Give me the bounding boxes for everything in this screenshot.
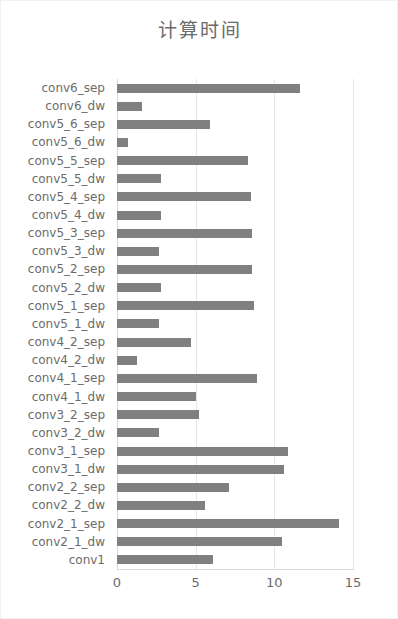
chart-title: 计算时间 bbox=[1, 15, 398, 42]
bar bbox=[117, 156, 248, 165]
bar-row bbox=[117, 133, 353, 151]
bar bbox=[117, 356, 137, 365]
bar bbox=[117, 138, 128, 147]
y-axis-tick-label: conv4_2_dw bbox=[1, 351, 111, 369]
bar-row bbox=[117, 97, 353, 115]
bar-row bbox=[117, 242, 353, 260]
bar-row bbox=[117, 406, 353, 424]
bar-row bbox=[117, 315, 353, 333]
y-axis-tick-label: conv3_1_dw bbox=[1, 460, 111, 478]
bar bbox=[117, 374, 257, 383]
bar bbox=[117, 229, 252, 238]
y-axis-tick-label: conv5_1_dw bbox=[1, 315, 111, 333]
bar bbox=[117, 265, 252, 274]
bar-row bbox=[117, 260, 353, 278]
bar-row bbox=[117, 188, 353, 206]
x-axis-tick-label: 0 bbox=[113, 575, 121, 590]
bar bbox=[117, 102, 142, 111]
y-axis-tick-label: conv5_6_sep bbox=[1, 115, 111, 133]
y-axis-tick-label: conv3_2_dw bbox=[1, 424, 111, 442]
y-axis-tick-label: conv5_5_sep bbox=[1, 152, 111, 170]
y-axis-tick-label: conv5_4_sep bbox=[1, 188, 111, 206]
y-axis-tick-label: conv3_1_sep bbox=[1, 442, 111, 460]
bar-row bbox=[117, 533, 353, 551]
bar bbox=[117, 428, 159, 437]
y-axis-tick-label: conv5_4_dw bbox=[1, 206, 111, 224]
bar bbox=[117, 501, 205, 510]
bar-series bbox=[117, 79, 353, 569]
bar bbox=[117, 192, 251, 201]
x-axis-tick-label: 15 bbox=[345, 575, 362, 590]
bar-row bbox=[117, 224, 353, 242]
bar-row bbox=[117, 424, 353, 442]
bar bbox=[117, 174, 161, 183]
y-axis-tick-label: conv4_1_sep bbox=[1, 369, 111, 387]
bar bbox=[117, 319, 159, 328]
bar-row bbox=[117, 388, 353, 406]
bar-row bbox=[117, 152, 353, 170]
bar-row bbox=[117, 115, 353, 133]
bar-row bbox=[117, 351, 353, 369]
bar bbox=[117, 84, 300, 93]
bar bbox=[117, 465, 284, 474]
x-axis-tick-label: 10 bbox=[266, 575, 283, 590]
y-axis-tick-label: conv4_1_dw bbox=[1, 388, 111, 406]
bar bbox=[117, 283, 161, 292]
bar bbox=[117, 555, 213, 564]
y-axis-tick-label: conv2_2_dw bbox=[1, 496, 111, 514]
y-axis-tick-label: conv5_2_dw bbox=[1, 279, 111, 297]
bar bbox=[117, 483, 229, 492]
y-axis-tick-label: conv2_1_dw bbox=[1, 533, 111, 551]
y-axis-tick-label: conv5_2_sep bbox=[1, 260, 111, 278]
x-axis-labels: 051015 bbox=[117, 575, 353, 599]
y-axis-tick-label: conv2_2_sep bbox=[1, 478, 111, 496]
bar bbox=[117, 338, 191, 347]
bar-chart: 计算时间 conv6_sepconv6_dwconv5_6_sepconv5_6… bbox=[0, 0, 398, 619]
bar bbox=[117, 537, 282, 546]
bar-row bbox=[117, 333, 353, 351]
bar bbox=[117, 301, 254, 310]
bar-row bbox=[117, 206, 353, 224]
y-axis-tick-label: conv5_3_sep bbox=[1, 224, 111, 242]
y-axis-tick-label: conv2_1_sep bbox=[1, 515, 111, 533]
y-axis-tick-label: conv5_6_dw bbox=[1, 133, 111, 151]
x-axis-line bbox=[117, 569, 354, 570]
y-axis-tick-label: conv6_sep bbox=[1, 79, 111, 97]
bar-row bbox=[117, 297, 353, 315]
bar-row bbox=[117, 515, 353, 533]
x-axis-tick-label: 5 bbox=[192, 575, 200, 590]
bar-row bbox=[117, 170, 353, 188]
bar-row bbox=[117, 279, 353, 297]
bar-row bbox=[117, 79, 353, 97]
y-axis-tick-label: conv5_5_dw bbox=[1, 170, 111, 188]
bar-row bbox=[117, 478, 353, 496]
bar-row bbox=[117, 442, 353, 460]
bar-row bbox=[117, 369, 353, 387]
y-axis-tick-label: conv3_2_sep bbox=[1, 406, 111, 424]
y-axis-tick-label: conv4_2_sep bbox=[1, 333, 111, 351]
bar-row bbox=[117, 551, 353, 569]
plot-area bbox=[117, 79, 353, 569]
y-axis-tick-label: conv5_1_sep bbox=[1, 297, 111, 315]
y-axis-tick-label: conv5_3_dw bbox=[1, 242, 111, 260]
y-axis-tick-label: conv6_dw bbox=[1, 97, 111, 115]
bar-row bbox=[117, 496, 353, 514]
bar bbox=[117, 392, 196, 401]
gridline-15 bbox=[353, 79, 354, 569]
bar bbox=[117, 211, 161, 220]
bar bbox=[117, 410, 199, 419]
y-axis-labels: conv6_sepconv6_dwconv5_6_sepconv5_6_dwco… bbox=[1, 79, 111, 569]
bar bbox=[117, 519, 339, 528]
bar bbox=[117, 120, 210, 129]
bar bbox=[117, 447, 288, 456]
bar-row bbox=[117, 460, 353, 478]
y-axis-tick-label: conv1 bbox=[1, 551, 111, 569]
bar bbox=[117, 247, 159, 256]
